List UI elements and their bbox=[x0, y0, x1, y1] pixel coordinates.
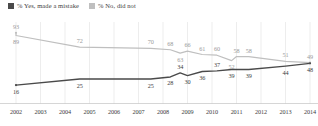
value-label-no-10: 58 bbox=[234, 47, 240, 53]
x-tick-2012: 2012 bbox=[255, 108, 267, 115]
x-tick-2010: 2010 bbox=[206, 108, 218, 115]
value-label-yes-3: 28 bbox=[167, 80, 173, 86]
legend-entry-no: % No, did not bbox=[89, 3, 136, 10]
x-tick-2003: 2003 bbox=[35, 108, 47, 115]
value-label-no-6: 66 bbox=[185, 42, 191, 48]
legend-swatch-no bbox=[89, 3, 95, 9]
value-label-no-3: 70 bbox=[148, 39, 154, 45]
x-tick-2007: 2007 bbox=[133, 108, 145, 115]
value-label-yes-1: 25 bbox=[77, 82, 83, 88]
legend-swatch-yes bbox=[8, 3, 14, 9]
value-label-no-12: 51 bbox=[283, 52, 289, 58]
value-label-yes-7: 37 bbox=[214, 62, 220, 68]
x-tick-2013: 2013 bbox=[280, 108, 292, 115]
series-marker-yes-last bbox=[309, 62, 311, 64]
plot-svg bbox=[0, 22, 318, 104]
x-tick-2011: 2011 bbox=[231, 108, 243, 115]
x-axis: 2002200320042005200620072008200920102011… bbox=[0, 104, 318, 126]
value-label-yes-9: 39 bbox=[246, 73, 252, 79]
x-tick-2002: 2002 bbox=[10, 108, 22, 115]
value-label-yes-4: 34 bbox=[177, 64, 183, 70]
value-label-no-11: 58 bbox=[246, 47, 252, 53]
value-label-yes-5: 30 bbox=[185, 79, 191, 85]
value-label-no-7: 61 bbox=[199, 45, 205, 51]
legend-label-yes: % Yes, made a mistake bbox=[17, 3, 79, 10]
x-tick-2004: 2004 bbox=[59, 108, 71, 115]
legend-entry-yes: % Yes, made a mistake bbox=[8, 3, 79, 10]
value-label-yes-2: 25 bbox=[148, 82, 154, 88]
value-label-no-9: 52 bbox=[229, 64, 235, 70]
x-tick-2005: 2005 bbox=[84, 108, 96, 115]
value-label-no-13: 49 bbox=[307, 54, 313, 60]
series-marker-yes-first bbox=[15, 84, 17, 86]
value-label-no-2: 72 bbox=[77, 38, 83, 44]
value-label-no-8: 60 bbox=[214, 46, 220, 52]
line-chart: % Yes, made a mistake% No, did not 93897… bbox=[0, 0, 318, 126]
value-label-no-1: 89 bbox=[13, 39, 19, 45]
value-label-yes-10: 44 bbox=[283, 69, 289, 75]
value-label-yes-6: 36 bbox=[199, 75, 205, 81]
x-tick-2009: 2009 bbox=[182, 108, 194, 115]
value-label-no-4: 68 bbox=[167, 41, 173, 47]
x-tick-2006: 2006 bbox=[108, 108, 120, 115]
legend-label-no: % No, did not bbox=[98, 3, 136, 10]
value-label-yes-8: 39 bbox=[229, 73, 235, 79]
chart-legend: % Yes, made a mistake% No, did not bbox=[8, 3, 136, 10]
x-tick-2014: 2014 bbox=[304, 108, 316, 115]
value-label-yes-0: 16 bbox=[13, 89, 19, 95]
x-tick-2008: 2008 bbox=[157, 108, 169, 115]
value-label-no-0: 93 bbox=[13, 24, 19, 30]
plot-area: 9389727068636661605258585149162525283430… bbox=[0, 22, 318, 104]
series-marker-no-first bbox=[15, 32, 17, 34]
value-label-yes-11: 48 bbox=[307, 67, 313, 73]
